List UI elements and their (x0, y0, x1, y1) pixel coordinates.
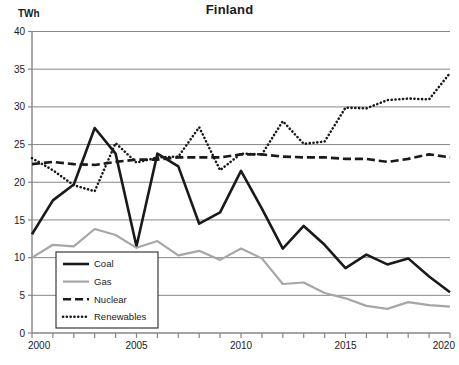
x-axis-tick-label: 2005 (125, 340, 148, 351)
x-axis-tick-label: 2015 (334, 340, 357, 351)
y-axis-tick-label: 35 (14, 64, 26, 75)
y-axis-tick-label: 20 (14, 177, 26, 188)
y-axis-tick-label: 10 (14, 252, 26, 263)
chart-container: Finland TWh 0510152025303540 20002005201… (0, 0, 459, 365)
legend-label-gas: Gas (94, 276, 112, 287)
y-axis-tick-label: 5 (19, 290, 25, 301)
legend-label-renewables: Renewables (94, 311, 147, 322)
chart-legend[interactable]: CoalGasNuclearRenewables (56, 252, 158, 328)
x-axis-tick-label: 2010 (230, 340, 253, 351)
y-axis-tick-label: 25 (14, 139, 26, 150)
x-axis: 20002005201020152020 (28, 333, 455, 351)
y-axis-tick-label: 30 (14, 101, 26, 112)
line-chart-plot: 0510152025303540 20002005201020152020 Co… (0, 0, 459, 365)
y-axis-tick-label: 40 (14, 26, 26, 37)
legend-label-nuclear: Nuclear (94, 294, 127, 305)
x-axis-tick-label: 2020 (433, 340, 456, 351)
legend-label-coal: Coal (94, 258, 114, 269)
x-axis-tick-label: 2000 (28, 340, 51, 351)
series-line-nuclear (32, 154, 450, 165)
y-axis-tick-label: 0 (19, 328, 25, 339)
y-axis: 0510152025303540 (14, 26, 32, 339)
y-axis-tick-label: 15 (14, 215, 26, 226)
